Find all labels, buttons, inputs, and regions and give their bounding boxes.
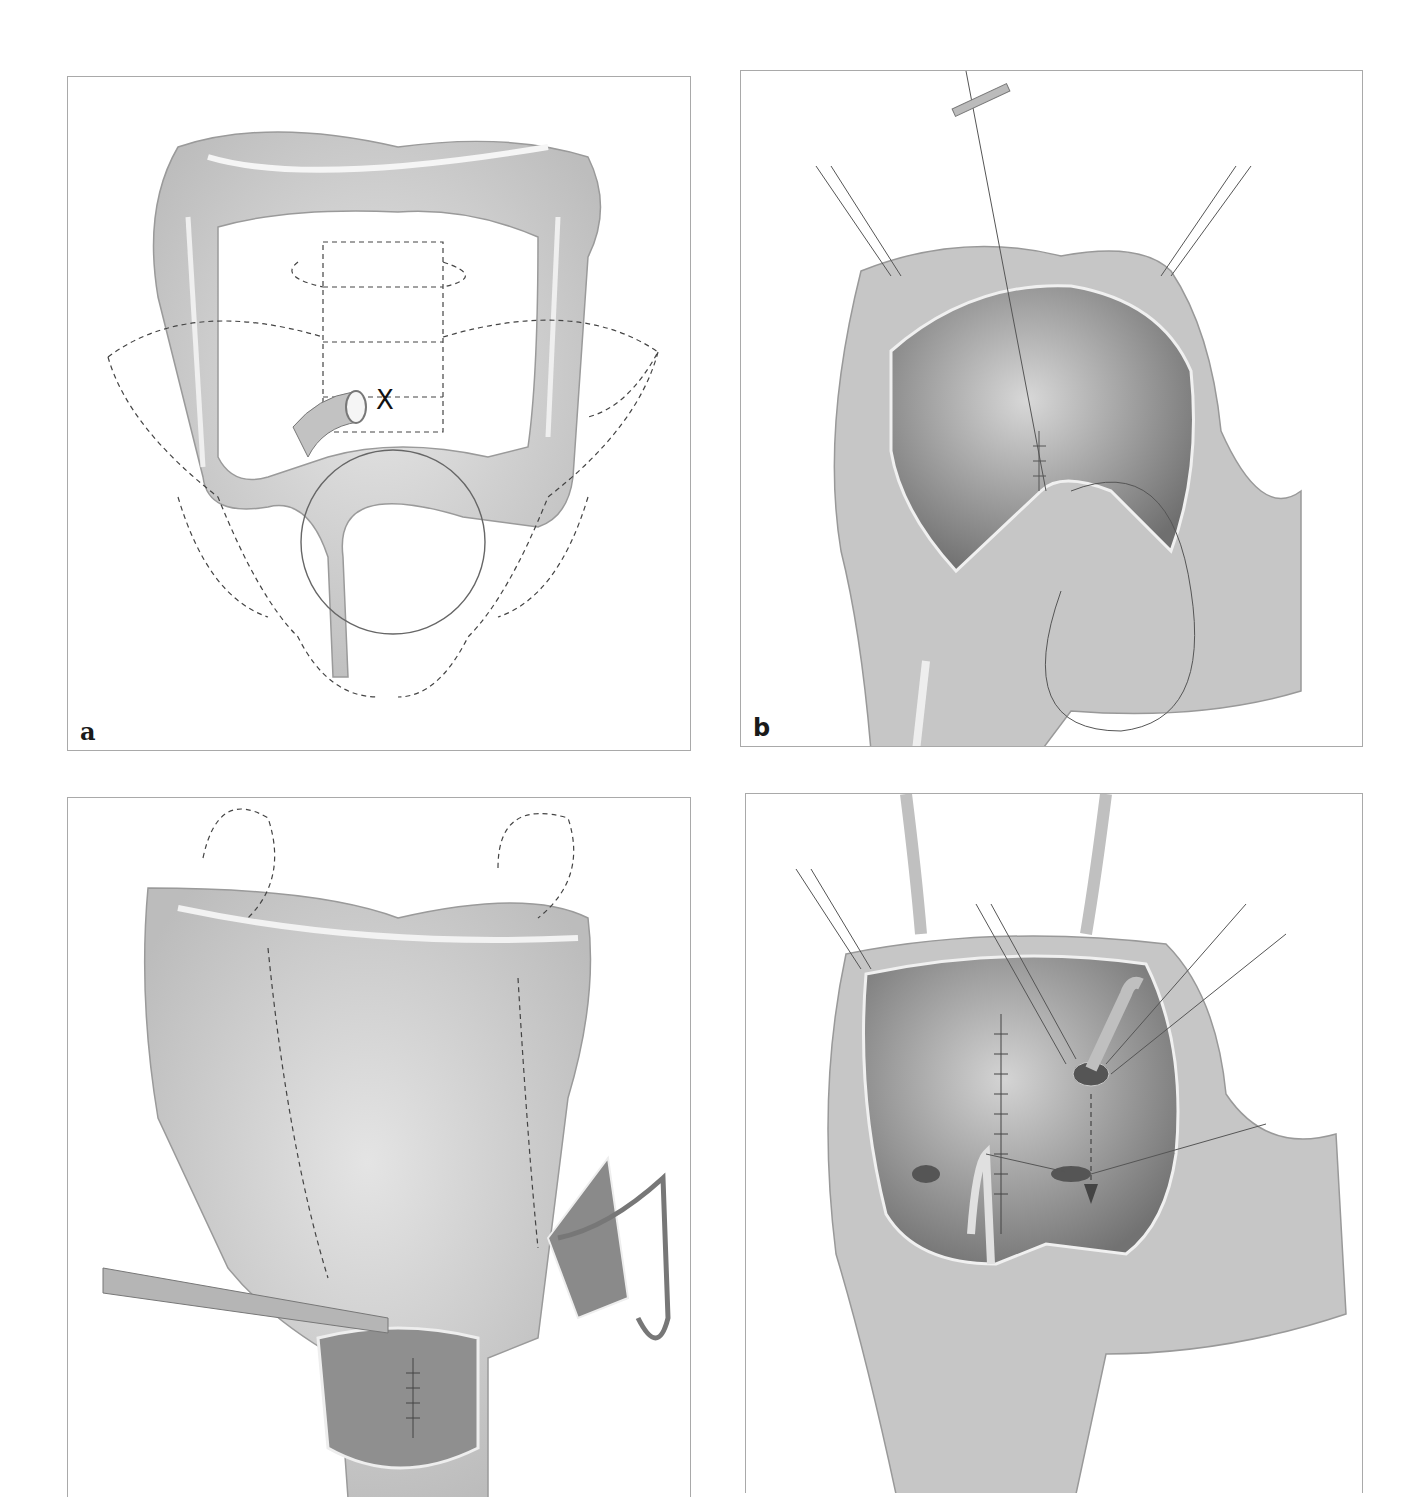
figure-panel-a: X a (67, 76, 691, 751)
figure-panel-d (745, 793, 1363, 1493)
colon-pouch-forceps-illustration (68, 798, 691, 1497)
figure-panel-c (67, 797, 691, 1497)
stoma-marker-x: X (376, 385, 394, 415)
panel-label-b: b (753, 714, 770, 742)
opened-pouch-illustration (741, 71, 1363, 747)
figure-panel-b: b (740, 70, 1363, 747)
panel-label-a: a (80, 717, 96, 746)
pouch-drains-illustration (746, 794, 1363, 1493)
